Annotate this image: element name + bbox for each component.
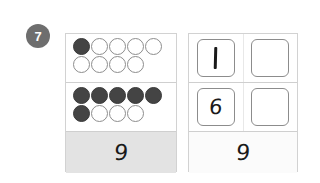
ten-frame-row-2 xyxy=(66,83,176,132)
counter-line-bottom xyxy=(73,105,170,122)
ten-frames-total-value: 9 xyxy=(113,142,129,164)
question-number-badge: 7 xyxy=(26,24,50,48)
counter-filled xyxy=(73,105,90,122)
counter-empty xyxy=(91,105,108,122)
counter-filled xyxy=(127,87,144,104)
counter-line-bottom xyxy=(73,56,170,73)
counter-filled xyxy=(73,38,90,55)
counter-empty xyxy=(91,38,108,55)
answer-cell-2-right[interactable] xyxy=(244,83,298,131)
ten-frame-row-1 xyxy=(66,34,176,83)
counter-filled xyxy=(109,87,126,104)
answers-total-value: 9 xyxy=(235,142,251,164)
counter-line-top xyxy=(73,87,170,104)
counter-empty xyxy=(127,38,144,55)
counter-empty xyxy=(109,105,126,122)
counter-empty xyxy=(91,56,108,73)
counter-empty xyxy=(145,38,162,55)
ten-frame-1 xyxy=(73,38,170,73)
digit-one-stroke xyxy=(214,47,218,69)
counter-empty xyxy=(127,105,144,122)
answer-box-filled-six[interactable]: 6 xyxy=(197,88,235,126)
answer-row-2: 6 xyxy=(189,83,297,132)
answers-total-strip: 9 xyxy=(189,132,297,173)
answer-cell-1-right[interactable] xyxy=(244,34,298,82)
counter-filled xyxy=(73,87,90,104)
answer-row-1 xyxy=(189,34,297,83)
answer-boxes-panel: 6 9 xyxy=(188,33,298,172)
counter-empty xyxy=(109,38,126,55)
counter-empty xyxy=(127,56,144,73)
answer-box-empty[interactable] xyxy=(251,88,289,126)
answer-box-filled-one[interactable] xyxy=(197,39,235,77)
counter-line-top xyxy=(73,38,170,55)
answer-value-six: 6 xyxy=(208,97,223,118)
answer-cell-1-left[interactable] xyxy=(189,34,244,82)
ten-frames-total-strip: 9 xyxy=(66,132,176,173)
ten-frames-panel: 9 xyxy=(65,33,177,172)
counter-empty xyxy=(109,56,126,73)
answer-box-empty[interactable] xyxy=(251,39,289,77)
ten-frame-2 xyxy=(73,87,170,122)
answer-cell-2-left[interactable]: 6 xyxy=(189,83,244,131)
counter-filled xyxy=(91,87,108,104)
counter-empty xyxy=(73,56,90,73)
counter-filled xyxy=(145,87,162,104)
